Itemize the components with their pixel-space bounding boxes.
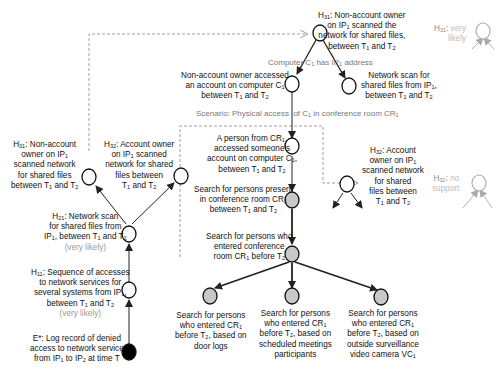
label-h11: H11: Sequence of accessesto network serv… [31,268,130,319]
label-h31-top: H31: Non-account owneron IP1 scanned the… [318,11,406,52]
label-h32-faded: H32: nosupport [432,174,459,194]
faded-nodes [472,23,490,191]
node-search-camera[interactable] [374,289,388,305]
edge-label-scenario: Scenario: Physical access of C1 in confe… [196,109,399,119]
label-search-camera: Search for personswho entered CR1before … [347,309,419,360]
node-h32-left[interactable] [174,168,188,184]
label-h31-faded: H31: verylikely [434,24,466,44]
node-h32-right[interactable] [340,176,354,192]
label-h21: H21: Network scanfor shared files fromIP… [44,212,127,253]
edge-label-computer-has-ip: Computer C1 has IP1 address [268,58,373,68]
node-e-star[interactable] [122,344,136,360]
label-non-account-access: Non-account owner accessedan account on … [181,71,289,102]
node-h31-left[interactable] [82,169,96,185]
node-search-meetings[interactable] [285,288,299,304]
label-h32-left: H32: Account owneron IP1 scannednetwork … [104,140,174,191]
node-h31-faded[interactable] [476,23,490,39]
node-search-door[interactable] [203,288,217,304]
label-person-cr1: A person from CR1,accessed someone'sacco… [207,134,297,175]
label-search-door: Search for personswho entered CR1before … [175,311,247,352]
label-search-present: Search for persons presentin conference … [194,185,293,216]
label-e-star: E*: Log record of deniedaccess to networ… [30,334,124,365]
label-search-meetings: Search for personswho entered CR1before … [259,309,332,360]
label-h31-left: H31: Non-accountowner on IP1scanned netw… [11,140,78,191]
label-search-entered: Search for persons whoentered conference… [206,232,292,263]
label-h32-right: H32: Accountowner on IP1scanned networkf… [362,146,424,207]
node-h32-faded[interactable] [472,175,486,191]
label-network-scan-ip1: Network scan forshared files from IP1,be… [361,71,437,102]
node-network-scan-ip1[interactable] [342,78,356,94]
